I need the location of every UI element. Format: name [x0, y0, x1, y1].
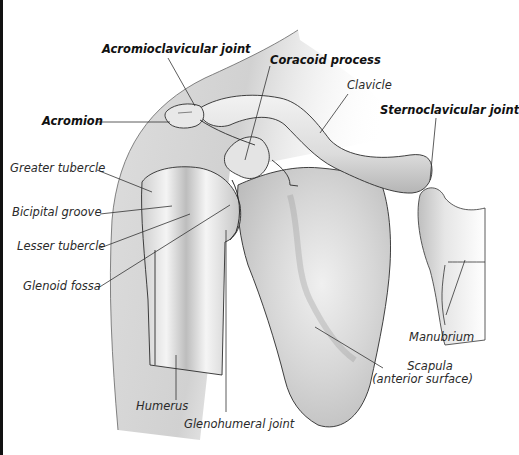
label-greater-tubercle: Greater tubercle: [10, 162, 105, 175]
acromion-shape: [165, 104, 204, 128]
label-glenohumeral-joint: Glenohumeral joint: [184, 418, 294, 431]
label-manubrium: Manubrium: [409, 331, 474, 344]
label-humerus: Humerus: [136, 400, 188, 413]
label-lesser-tubercle: Lesser tubercle: [17, 240, 105, 253]
scapula-shape: [237, 167, 390, 426]
label-acromion: Acromion: [42, 115, 103, 128]
label-coracoid-process: Coracoid process: [270, 54, 381, 67]
label-bicipital-groove: Bicipital groove: [12, 206, 101, 219]
label-acromioclavicular-joint: Acromioclavicular joint: [102, 43, 251, 56]
label-glenoid-fossa: Glenoid fossa: [23, 280, 101, 293]
label-clavicle: Clavicle: [347, 79, 392, 92]
label-scapula-subtitle: (anterior surface): [360, 373, 485, 386]
manubrium-shape: [418, 188, 485, 345]
label-sternoclavicular-joint: Sternoclavicular joint: [380, 104, 519, 117]
